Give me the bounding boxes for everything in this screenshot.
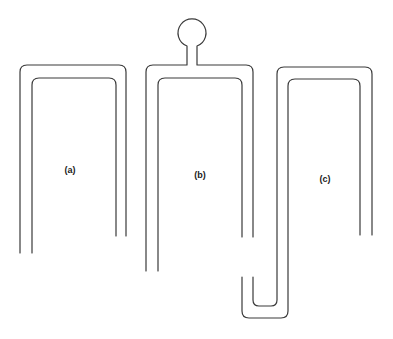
panel-c-trace	[242, 67, 372, 318]
diagram-canvas: (a) (b) (c)	[0, 0, 393, 339]
panel-a-outer-outline	[20, 65, 126, 253]
panel-b-outer-outline	[146, 19, 253, 271]
panel-a-label: (a)	[65, 165, 76, 175]
panel-b-label: (b)	[194, 170, 206, 180]
panel-c-label: (c)	[320, 174, 331, 184]
panel-c-outer-outline	[242, 79, 360, 318]
panel-b-trace	[146, 19, 253, 271]
panel-c-inner-outline	[253, 67, 372, 306]
panel-a-trace	[20, 65, 126, 253]
